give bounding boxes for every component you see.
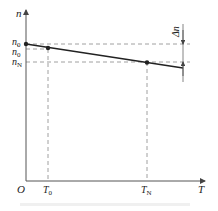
point-n0 (24, 42, 28, 46)
speed-torque-diagram: Δn n T O n0 n0′ nN T0 TN (0, 0, 218, 211)
point-TN (145, 60, 149, 64)
y-axis-label: n (16, 7, 22, 19)
svg-text:TN: TN (141, 184, 152, 197)
delta-n-label: Δn (170, 26, 181, 38)
svg-text:T0: T0 (43, 184, 53, 197)
caption-faint (20, 203, 190, 206)
label-T0: T0 (43, 184, 53, 197)
x-axis-label: T (198, 183, 205, 195)
label-TN: TN (141, 184, 152, 197)
origin-label: O (17, 183, 25, 195)
point-T0 (46, 46, 50, 50)
